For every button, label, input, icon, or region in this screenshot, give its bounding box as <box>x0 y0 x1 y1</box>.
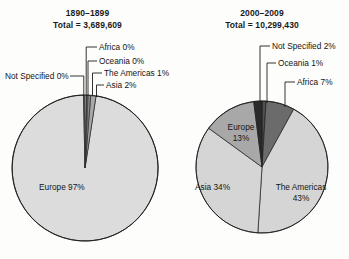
pie-label-africa-left: Africa 0% <box>99 42 135 53</box>
pie-label-oceania-left: Oceania 0% <box>99 56 144 67</box>
pie-label-europe-right-name: Europe <box>228 122 255 132</box>
leader-africa-right <box>285 82 295 107</box>
leader-not-specified-right <box>260 46 270 103</box>
leader-not-specified-left <box>70 76 84 96</box>
pie-label-americas-right-name: The Americas <box>276 182 327 192</box>
pie-label-not-specified-right: Not Specified 2% <box>272 41 336 52</box>
pie-label-americas-right: The Americas 43% <box>265 182 337 203</box>
pie-label-asia-right: Asia 34% <box>195 182 230 193</box>
leader-oceania-right <box>267 63 276 103</box>
figure-two-pie-charts: 1890–1899 Total = 3,689,609 <box>0 0 349 259</box>
pie-panel-1890-1899: 1890–1899 Total = 3,689,609 <box>0 0 175 259</box>
pie-label-americas-left: The Americas 1% <box>104 68 169 79</box>
pie-label-americas-right-value: 43% <box>293 193 310 203</box>
leader-asia-left <box>97 85 105 97</box>
pie-panel-2000-2009: 2000–2009 Total = 10,299,430 <box>175 0 349 259</box>
pie-label-europe-right: Europe 13% <box>215 122 267 143</box>
pie-svg-left <box>0 0 175 259</box>
pie-label-europe-right-value: 13% <box>233 133 250 143</box>
pie-label-oceania-right: Oceania 1% <box>278 58 323 69</box>
pie-label-africa-right: Africa 7% <box>297 77 333 88</box>
leader-americas-left <box>93 73 103 96</box>
pie-label-europe-left: Europe 97% <box>39 182 85 193</box>
pie-label-asia-left: Asia 2% <box>106 80 136 91</box>
pie-label-not-specified-left: Not Specified 0% <box>5 71 69 82</box>
